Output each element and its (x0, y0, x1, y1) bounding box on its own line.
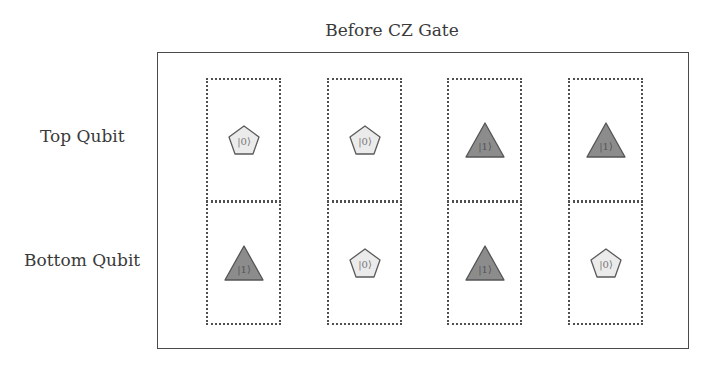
pentagon-icon: |0⟩ (227, 124, 261, 156)
triangle-icon: |1⟩ (223, 244, 265, 282)
state-column-2: |0⟩ |0⟩ (327, 78, 402, 326)
top-qubit-cell: |0⟩ (206, 78, 281, 202)
pentagon-icon: |0⟩ (589, 247, 623, 279)
state-label: |1⟩ (237, 264, 251, 276)
state-label: |0⟩ (358, 259, 372, 271)
state-label: |1⟩ (599, 141, 613, 153)
bottom-qubit-cell: |1⟩ (447, 201, 522, 325)
state-label: |0⟩ (237, 136, 251, 148)
state-column-4: |1⟩ |0⟩ (568, 78, 643, 326)
top-qubit-cell: |1⟩ (447, 78, 522, 202)
top-qubit-cell: |0⟩ (327, 78, 402, 202)
triangle-icon: |1⟩ (464, 121, 506, 159)
state-label: |0⟩ (599, 259, 613, 271)
bottom-qubit-cell: |0⟩ (568, 201, 643, 325)
triangle-icon: |1⟩ (585, 121, 627, 159)
state-label: |1⟩ (478, 141, 492, 153)
top-qubit-cell: |1⟩ (568, 78, 643, 202)
state-column-3: |1⟩ |1⟩ (447, 78, 522, 326)
pentagon-icon: |0⟩ (348, 124, 382, 156)
state-label: |1⟩ (478, 264, 492, 276)
state-column-1: |0⟩ |1⟩ (206, 78, 281, 326)
state-label: |0⟩ (358, 136, 372, 148)
bottom-qubit-cell: |1⟩ (206, 201, 281, 325)
triangle-icon: |1⟩ (464, 244, 506, 282)
pentagon-icon: |0⟩ (348, 247, 382, 279)
row-label-top-qubit: Top Qubit (40, 126, 125, 146)
row-label-bottom-qubit: Bottom Qubit (24, 250, 140, 270)
bottom-qubit-cell: |0⟩ (327, 201, 402, 325)
diagram-title: Before CZ Gate (0, 20, 718, 40)
